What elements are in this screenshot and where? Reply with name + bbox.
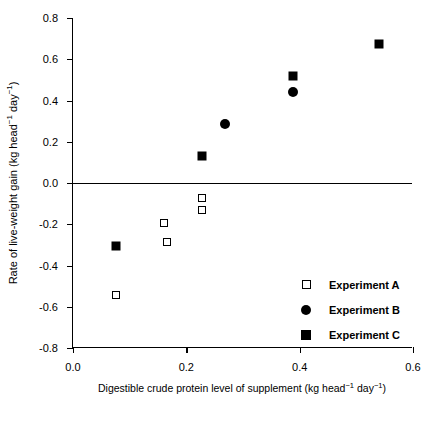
x-axis-title-suffix: ) bbox=[383, 382, 387, 394]
y-tick-label: -0.2 bbox=[39, 219, 58, 230]
x-tick-label: 0.4 bbox=[292, 362, 307, 373]
y-tick: 0.8 bbox=[67, 18, 73, 19]
data-point bbox=[198, 152, 207, 161]
filled-circle-icon bbox=[295, 305, 317, 315]
x-tick: 0.4 bbox=[300, 347, 301, 353]
legend-label: Experiment A bbox=[329, 279, 400, 291]
y-axis-title-mid: day bbox=[7, 94, 19, 115]
legend-label: Experiment C bbox=[329, 329, 400, 341]
y-tick: 0.6 bbox=[67, 59, 73, 60]
y-axis-title-prefix: Rate of live-weight gain (kg head bbox=[7, 124, 19, 284]
filled-square-icon bbox=[295, 330, 317, 340]
y-tick-label: -0.6 bbox=[39, 301, 58, 312]
x-axis-title-sup2: −1 bbox=[374, 381, 383, 390]
data-point bbox=[163, 238, 171, 246]
x-tick: 0.2 bbox=[186, 347, 187, 353]
data-point bbox=[198, 206, 206, 214]
y-tick-label: 0.2 bbox=[43, 136, 58, 147]
x-tick-label: 0.0 bbox=[65, 362, 80, 373]
x-axis-title: Digestible crude protein level of supple… bbox=[72, 382, 412, 395]
x-tick-label: 0.6 bbox=[405, 362, 420, 373]
x-tick: 0.0 bbox=[73, 347, 74, 353]
x-tick: 0.6 bbox=[413, 347, 414, 353]
data-point bbox=[160, 219, 168, 227]
data-point bbox=[375, 40, 384, 49]
y-tick: -0.4 bbox=[67, 266, 73, 267]
y-tick: 0.2 bbox=[67, 142, 73, 143]
data-point bbox=[198, 194, 206, 202]
legend: Experiment A Experiment B Experiment C bbox=[295, 272, 400, 347]
data-point bbox=[288, 87, 298, 97]
open-square-icon bbox=[295, 280, 317, 289]
legend-item-experiment-b: Experiment B bbox=[295, 297, 400, 322]
x-axis-title-prefix: Digestible crude protein level of supple… bbox=[98, 382, 345, 394]
y-tick-label: 0.0 bbox=[43, 178, 58, 189]
y-axis-title-suffix: ) bbox=[7, 82, 19, 86]
legend-item-experiment-c: Experiment C bbox=[295, 322, 400, 347]
y-tick: 0.4 bbox=[67, 101, 73, 102]
y-tick-label: -0.8 bbox=[39, 343, 58, 354]
y-tick: -0.6 bbox=[67, 307, 73, 308]
data-point bbox=[111, 241, 120, 250]
y-axis-title-sup1: −1 bbox=[5, 115, 14, 124]
data-point bbox=[220, 119, 230, 129]
x-axis-title-mid: day bbox=[354, 382, 374, 394]
y-tick: -0.2 bbox=[67, 224, 73, 225]
y-tick-label: 0.8 bbox=[43, 13, 58, 24]
data-point bbox=[288, 71, 297, 80]
x-tick-label: 0.2 bbox=[179, 362, 194, 373]
plot-area: 0.80.60.40.20.0-0.2-0.4-0.6-0.8 0.00.20.… bbox=[72, 18, 412, 348]
y-tick-label: 0.4 bbox=[43, 95, 58, 106]
legend-label: Experiment B bbox=[329, 304, 400, 316]
scatter-chart: Rate of live-weight gain (kg head−1 day−… bbox=[0, 0, 442, 425]
y-axis-title-sup2: −1 bbox=[5, 85, 14, 94]
y-axis-title: Rate of live-weight gain (kg head−1 day−… bbox=[6, 18, 20, 348]
zero-line bbox=[73, 183, 412, 184]
data-point bbox=[112, 291, 120, 299]
legend-item-experiment-a: Experiment A bbox=[295, 272, 400, 297]
y-tick-label: 0.6 bbox=[43, 54, 58, 65]
x-axis-title-sup1: −1 bbox=[345, 381, 354, 390]
y-tick-label: -0.4 bbox=[39, 260, 58, 271]
